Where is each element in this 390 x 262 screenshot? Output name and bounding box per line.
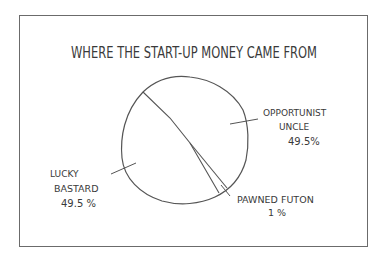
label-futon-line1: PAWNED FUTON <box>237 194 314 205</box>
slice-divider-futon <box>190 143 227 188</box>
chart-title: WHERE THE START-UP MONEY CAME FROM <box>71 44 317 62</box>
label-uncle-value: 49.5% <box>288 136 320 147</box>
label-lucky-line2: BASTARD <box>54 183 99 194</box>
label-lucky-line1: LUCKY <box>50 169 79 179</box>
pie-chart: WHERE THE START-UP MONEY CAME FROM OPPOR… <box>0 0 390 262</box>
label-futon-value: 1 % <box>268 207 286 218</box>
pie-outline <box>122 76 248 203</box>
slice-divider-main <box>143 92 219 193</box>
label-uncle-line2: UNCLE <box>279 122 310 132</box>
leader-uncle <box>230 119 258 124</box>
label-lucky-value: 49.5 % <box>61 198 96 209</box>
label-uncle-line1: OPPORTUNIST <box>263 108 327 118</box>
